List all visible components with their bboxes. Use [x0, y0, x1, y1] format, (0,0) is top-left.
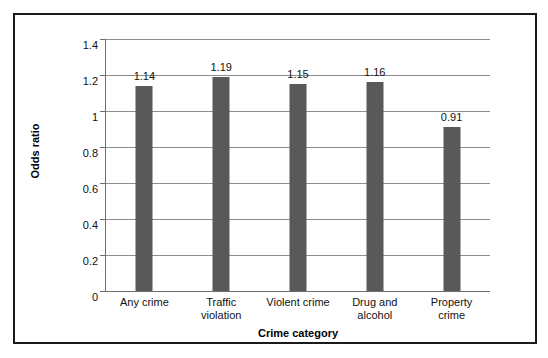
y-tick-label-1: 1	[55, 112, 98, 123]
bar-value-property-crime: 0.91	[441, 111, 462, 123]
x-axis-title: Crime category	[106, 327, 490, 339]
x-tick-label-any-crime: Any crime	[106, 296, 183, 309]
y-axis-title: Odds ratio	[29, 111, 41, 191]
x-axis-line	[106, 291, 490, 292]
bar-slot-any-crime: 1.14	[106, 39, 183, 291]
bar-any-crime[interactable]	[136, 86, 153, 291]
bar-traffic-violation[interactable]	[213, 77, 230, 291]
figure-frame: Odds ratio 0 0.2 0.4 0.6 0.8 1 1.2 1.4	[13, 13, 537, 344]
x-tick-label-traffic-violation: Trafficviolation	[183, 296, 260, 321]
plot-area: 1.14 1.19 1.15 1.16 0.91	[106, 39, 490, 291]
y-tick-label-0-6: 0.6	[55, 184, 98, 195]
y-tick-label-1-4: 1.4	[55, 40, 98, 51]
y-tick-label-0-4: 0.4	[55, 220, 98, 231]
y-tick-label-0-8: 0.8	[55, 148, 98, 159]
bar-value-violent-crime: 1.15	[287, 68, 308, 80]
x-tick-label-violent-crime: Violent crime	[260, 296, 337, 309]
bar-drug-and-alcohol[interactable]	[366, 82, 383, 291]
bar-value-drug-and-alcohol: 1.16	[364, 66, 385, 78]
y-tick-label-1-2: 1.2	[55, 76, 98, 87]
bar-slot-drug-and-alcohol: 1.16	[336, 39, 413, 291]
y-tick-label-0-2: 0.2	[55, 256, 98, 267]
bar-slot-property-crime: 0.91	[413, 39, 490, 291]
bar-value-traffic-violation: 1.19	[210, 61, 231, 73]
bar-slot-traffic-violation: 1.19	[183, 39, 260, 291]
x-tick-label-drug-and-alcohol: Drug andalcohol	[336, 296, 413, 321]
bar-property-crime[interactable]	[443, 127, 460, 291]
bar-slot-violent-crime: 1.15	[260, 39, 337, 291]
bar-value-any-crime: 1.14	[134, 70, 155, 82]
y-tick-label-0: 0	[55, 292, 98, 303]
bar-chart: Odds ratio 0 0.2 0.4 0.6 0.8 1 1.2 1.4	[15, 15, 539, 346]
x-tick-label-property-crime: Propertycrime	[413, 296, 490, 321]
bar-violent-crime[interactable]	[289, 84, 306, 291]
